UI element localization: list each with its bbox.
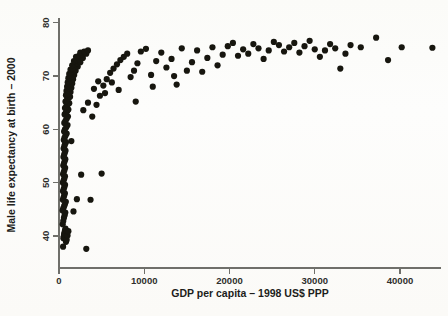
y-tick-label: 70 bbox=[40, 71, 51, 82]
data-point bbox=[109, 79, 115, 85]
x-tick-label: 40000 bbox=[387, 275, 413, 286]
data-point bbox=[194, 47, 200, 53]
data-point bbox=[209, 44, 215, 50]
data-points-layer bbox=[59, 35, 435, 252]
chart-canvas: 4050607080 010000200003000040000 Male li… bbox=[0, 0, 448, 316]
data-point bbox=[266, 47, 272, 53]
data-point bbox=[399, 44, 405, 50]
data-point bbox=[116, 87, 122, 93]
data-point bbox=[168, 56, 174, 62]
data-point bbox=[133, 99, 139, 105]
x-axis-ticks: 010000200003000040000 bbox=[56, 268, 413, 286]
data-point bbox=[153, 58, 159, 64]
y-tick-label: 50 bbox=[40, 177, 51, 188]
figure-container: 4050607080 010000200003000040000 Male li… bbox=[0, 0, 448, 316]
y-axis-ticks: 4050607080 bbox=[40, 17, 59, 241]
data-point bbox=[317, 54, 323, 60]
data-point bbox=[358, 44, 364, 50]
data-point bbox=[184, 68, 190, 74]
x-axis-title: GDP per capita – 1998 US$ PPP bbox=[171, 287, 328, 299]
data-point bbox=[93, 102, 99, 108]
data-point bbox=[99, 171, 105, 177]
data-point bbox=[255, 45, 261, 51]
data-point bbox=[100, 83, 106, 89]
x-tick-label: 10000 bbox=[131, 275, 157, 286]
data-point bbox=[373, 35, 379, 41]
data-point bbox=[245, 51, 251, 57]
x-tick-label: 0 bbox=[56, 275, 61, 286]
data-point bbox=[429, 45, 435, 51]
data-point bbox=[80, 107, 86, 113]
data-point bbox=[65, 228, 71, 234]
data-point bbox=[104, 76, 110, 82]
data-point bbox=[271, 39, 277, 45]
y-tick-label: 80 bbox=[40, 17, 51, 28]
data-point bbox=[128, 74, 134, 80]
data-point bbox=[174, 81, 180, 87]
data-point bbox=[342, 51, 348, 57]
data-point bbox=[261, 56, 267, 62]
x-tick-label: 30000 bbox=[302, 275, 328, 286]
data-point bbox=[87, 197, 93, 203]
x-tick-label: 20000 bbox=[216, 275, 242, 286]
data-point bbox=[68, 138, 74, 144]
y-tick-label: 60 bbox=[40, 124, 51, 135]
y-tick-label: 40 bbox=[40, 231, 51, 242]
data-point bbox=[148, 72, 154, 78]
data-point bbox=[291, 40, 297, 46]
data-point bbox=[281, 48, 287, 54]
data-point bbox=[179, 45, 185, 51]
data-point bbox=[124, 51, 130, 57]
data-point bbox=[220, 52, 226, 58]
data-point bbox=[385, 57, 391, 63]
data-point bbox=[91, 86, 97, 92]
data-point bbox=[143, 46, 149, 52]
data-point bbox=[250, 41, 256, 47]
data-point bbox=[85, 47, 91, 53]
data-point bbox=[95, 78, 101, 84]
data-point bbox=[296, 49, 302, 55]
data-point bbox=[158, 49, 164, 55]
y-axis-title: Male life expectancy at birth – 2000 bbox=[5, 57, 17, 232]
data-point bbox=[301, 43, 307, 49]
data-point bbox=[347, 42, 353, 48]
data-point bbox=[78, 172, 84, 178]
data-point bbox=[240, 46, 246, 52]
data-point bbox=[85, 100, 91, 106]
data-point bbox=[332, 45, 338, 51]
data-point bbox=[199, 69, 205, 75]
data-point bbox=[286, 44, 292, 50]
data-point bbox=[131, 68, 137, 74]
data-point bbox=[102, 90, 108, 96]
data-point bbox=[276, 42, 282, 48]
data-point bbox=[230, 40, 236, 46]
data-point bbox=[163, 64, 169, 70]
data-point bbox=[225, 43, 231, 49]
data-point bbox=[235, 53, 241, 59]
data-point bbox=[307, 38, 313, 44]
data-point bbox=[214, 62, 220, 68]
data-point bbox=[74, 196, 80, 202]
data-point bbox=[204, 55, 210, 61]
scatter-plot: 4050607080 010000200003000040000 Male li… bbox=[0, 0, 448, 316]
data-point bbox=[327, 41, 333, 47]
data-point bbox=[150, 84, 156, 90]
data-point bbox=[312, 46, 318, 52]
data-point bbox=[89, 113, 95, 119]
data-point bbox=[134, 60, 140, 66]
data-point bbox=[83, 246, 89, 252]
data-point bbox=[70, 208, 76, 214]
data-point bbox=[322, 47, 328, 53]
data-point bbox=[171, 73, 177, 79]
data-point bbox=[337, 65, 343, 71]
data-point bbox=[189, 59, 195, 65]
